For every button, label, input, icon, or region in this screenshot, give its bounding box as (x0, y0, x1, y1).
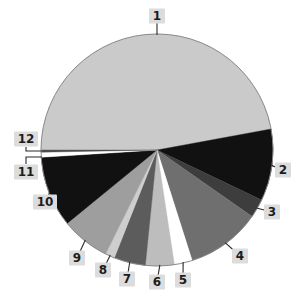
callout-number-10: 10 (37, 195, 54, 209)
callout-number-1: 1 (153, 9, 161, 23)
callout-line-11 (26, 157, 42, 164)
callout-number-7: 7 (123, 272, 131, 286)
callout-label-11: 11 (14, 165, 38, 180)
callout-number-12: 12 (18, 132, 35, 146)
callout-number-9: 9 (73, 251, 81, 265)
callout-label-7: 7 (119, 272, 135, 287)
pie-chart-figure: 123456789101112 (0, 0, 306, 303)
callout-label-4: 4 (232, 249, 248, 264)
callout-number-8: 8 (99, 263, 107, 277)
callout-number-3: 3 (268, 205, 276, 219)
callout-label-12: 12 (14, 132, 38, 147)
callout-label-1: 1 (149, 9, 165, 24)
callout-number-5: 5 (179, 273, 187, 287)
pie-chart: 123456789101112 (0, 0, 306, 303)
callout-number-2: 2 (279, 163, 287, 177)
callout-label-2: 2 (275, 163, 291, 178)
callout-number-11: 11 (18, 165, 35, 179)
callout-label-6: 6 (149, 275, 165, 290)
callout-number-4: 4 (236, 249, 244, 263)
callout-number-6: 6 (153, 275, 161, 289)
callout-label-9: 9 (69, 251, 85, 266)
callout-label-8: 8 (95, 263, 111, 278)
callout-label-10: 10 (33, 195, 57, 210)
callout-label-3: 3 (264, 205, 280, 220)
callout-line-12 (26, 147, 41, 151)
pie-slice-1 (41, 34, 271, 150)
callout-label-5: 5 (175, 273, 191, 288)
